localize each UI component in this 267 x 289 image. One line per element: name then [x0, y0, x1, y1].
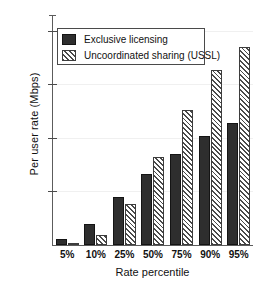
- y-axis-title: Per user rate (Mbps): [28, 34, 40, 214]
- legend-item-uncoordinated-sharing: Uncoordinated sharing (USSL): [62, 48, 220, 62]
- bar: [68, 243, 79, 245]
- bar: [227, 123, 238, 245]
- bar: [113, 197, 124, 245]
- x-axis-line: [52, 245, 253, 246]
- legend-item-exclusive-licensing: Exclusive licensing: [62, 32, 168, 46]
- x-axis-tick-label: 25%: [114, 249, 134, 260]
- x-axis-tick-label: 50%: [143, 249, 163, 260]
- bar: [211, 70, 222, 245]
- x-axis-tick-label: 95%: [229, 249, 249, 260]
- legend-swatch-solid-icon: [62, 34, 76, 45]
- legend-swatch-hatched-icon: [62, 50, 76, 61]
- chart-legend: Exclusive licensing Uncoordinated sharin…: [57, 28, 205, 65]
- x-axis-tick-labels: 5%10%25%50%75%90%95%: [52, 249, 253, 263]
- x-axis-tick-label: 5%: [60, 249, 74, 260]
- bar-group: [224, 20, 253, 245]
- x-axis-title: Rate percentile: [52, 266, 253, 278]
- bar: [182, 110, 193, 245]
- bar: [153, 157, 164, 245]
- legend-label-exclusive-licensing: Exclusive licensing: [84, 34, 168, 45]
- x-axis-tick-label: 90%: [200, 249, 220, 260]
- bar: [141, 174, 152, 245]
- bar-chart-figure: Per user rate (Mbps) 50100150200 5%10%25…: [0, 0, 267, 289]
- bar: [96, 235, 107, 245]
- bar: [125, 204, 136, 245]
- legend-label-uncoordinated-sharing: Uncoordinated sharing (USSL): [84, 50, 220, 61]
- bar: [199, 136, 210, 245]
- x-axis-tick-label: 75%: [172, 249, 192, 260]
- x-axis-tick-label: 10%: [86, 249, 106, 260]
- bar: [56, 239, 67, 245]
- bar: [239, 47, 250, 245]
- bar: [170, 154, 181, 245]
- y-axis-top-cap: [49, 15, 56, 16]
- bar: [84, 224, 95, 245]
